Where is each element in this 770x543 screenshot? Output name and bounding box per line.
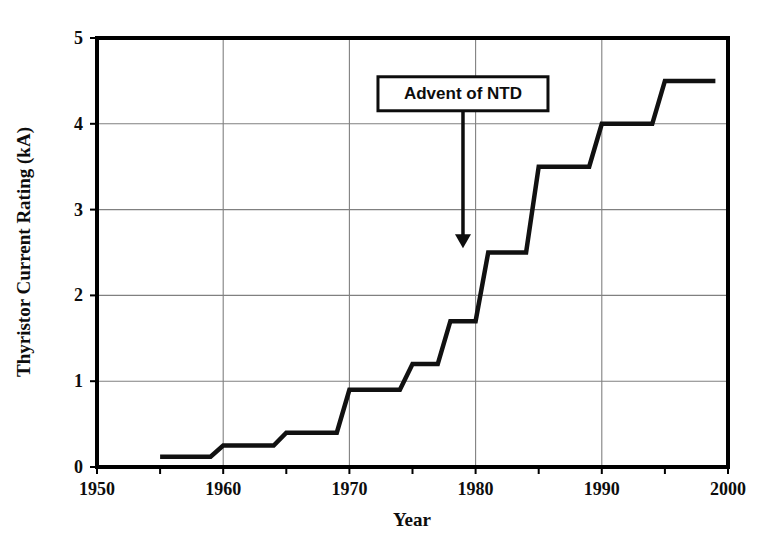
x-tick-label: 1950 [79, 479, 115, 499]
x-tick-label: 1990 [584, 479, 620, 499]
x-tick-label: 1960 [205, 479, 241, 499]
y-tick-label: 4 [74, 114, 83, 134]
y-tick-label: 0 [74, 457, 83, 477]
x-axis-title: Year [393, 509, 432, 530]
y-tick-label: 2 [74, 285, 83, 305]
chart-canvas: 195019601970198019902000 012345 Advent o… [0, 0, 770, 543]
annotation-label: Advent of NTD [404, 84, 522, 103]
y-axis-title: Thyristor Current Rating (kA) [13, 127, 35, 377]
x-tick-label: 1980 [458, 479, 494, 499]
x-tick-label: 1970 [331, 479, 367, 499]
chart-figure: 195019601970198019902000 012345 Advent o… [0, 0, 770, 543]
y-tick-label: 1 [74, 371, 83, 391]
y-tick-label: 5 [74, 28, 83, 48]
x-tick-label: 2000 [710, 479, 746, 499]
y-tick-label: 3 [74, 200, 83, 220]
